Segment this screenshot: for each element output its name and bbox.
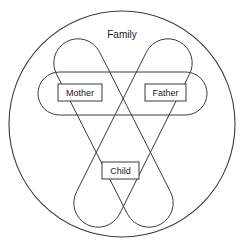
father-node: Father xyxy=(145,84,186,101)
child-node: Child xyxy=(102,162,139,179)
mother-label-text: Mother xyxy=(66,88,94,98)
diagram-canvas: Family Mother Father Child xyxy=(0,0,247,251)
child-label-text: Child xyxy=(110,166,131,176)
family-venn-diagram: Family Mother Father Child xyxy=(0,0,247,251)
mother-node: Mother xyxy=(58,84,102,101)
father-label-text: Father xyxy=(152,88,178,98)
diagram-title: Family xyxy=(107,29,136,40)
